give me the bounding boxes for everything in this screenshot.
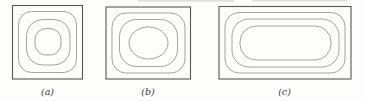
figure-canvas: (a)(b)(c) bbox=[0, 0, 366, 101]
panel-a-contour-2 bbox=[27, 20, 71, 66]
panel-c: (c) bbox=[219, 7, 351, 98]
scan-artifact bbox=[138, 0, 234, 2]
panel-a: (a) bbox=[13, 6, 83, 98]
panel-c-contour-3 bbox=[240, 26, 331, 60]
scan-artifact bbox=[252, 0, 347, 1]
panel-b: (b) bbox=[106, 7, 191, 97]
panel-label-b: (b) bbox=[141, 86, 155, 97]
panel-b-contour-2 bbox=[120, 20, 178, 67]
panel-a-contour-1 bbox=[19, 12, 77, 73]
panel-b-contour-3 bbox=[129, 27, 168, 59]
panel-a-contour-3 bbox=[35, 29, 61, 56]
contour-figure: (a)(b)(c) bbox=[0, 0, 366, 101]
panel-a-boundary bbox=[13, 6, 83, 80]
panel-b-contour-1 bbox=[112, 13, 185, 73]
panel-c-contour-1 bbox=[225, 13, 345, 74]
panel-label-c: (c) bbox=[278, 86, 291, 97]
panel-label-a: (a) bbox=[41, 86, 54, 97]
